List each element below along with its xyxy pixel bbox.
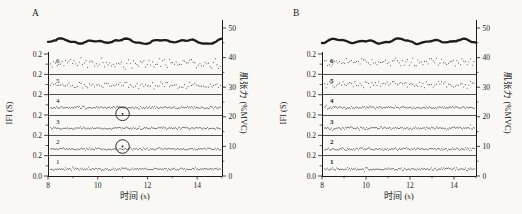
ifi-trace-1 (324, 168, 475, 172)
right-tick-label: 40 (229, 53, 237, 62)
ifi-trace-3 (324, 125, 475, 131)
right-tick-label: 50 (483, 24, 491, 33)
band-number-label: 4 (330, 97, 334, 105)
ifi-trace-2 (324, 148, 475, 151)
x-tick-label: 14 (450, 181, 458, 190)
panel-b-right-axis-title: 肌张力 (%MVC) (502, 53, 514, 153)
right-tick-label: 40 (483, 53, 491, 62)
left-tick-label: 0.2 (307, 90, 317, 99)
left-tick-label: 0.0 (33, 172, 43, 181)
ifi-trace-6 (324, 58, 474, 66)
ifi-trace-4 (324, 105, 475, 109)
panel-a-label: A (32, 8, 39, 18)
band-number-label: 4 (56, 97, 60, 105)
panel-a-right-axis-title: 肌张力 (%MVC) (238, 53, 250, 153)
ifi-trace-1 (50, 167, 221, 171)
band-number-label: 6 (56, 57, 60, 65)
left-tick-label: 0.2 (33, 111, 43, 120)
left-tick-label: 0.2 (307, 151, 317, 160)
tension-trace (322, 38, 476, 44)
ifi-trace-5 (324, 81, 474, 88)
band-number-label: 3 (56, 118, 60, 126)
right-tick-label: 10 (229, 142, 237, 151)
left-tick-label: 0.2 (33, 50, 43, 59)
x-tick-label: 8 (46, 181, 50, 190)
band-number-label: 1 (56, 158, 60, 166)
left-tick-label: 0.0 (307, 172, 317, 181)
outlier-point (122, 113, 124, 115)
ifi-trace-3 (50, 126, 221, 129)
x-tick-label: 8 (320, 181, 324, 190)
panel-b-label: B (293, 8, 299, 18)
ifi-trace-4 (50, 106, 221, 109)
figure: 0.20.20.20.20.20.20.00102030405081012146… (0, 0, 522, 214)
x-tick-label: 14 (193, 181, 201, 190)
tension-trace (48, 38, 222, 43)
figure-canvas: 0.20.20.20.20.20.20.00102030405081012146… (0, 0, 522, 214)
panel-a-x-axis-title: 时间 (s) (85, 189, 185, 202)
band-number-label: 6 (330, 57, 334, 65)
left-tick-label: 0.2 (307, 111, 317, 120)
panel-a-left-axis-title: IFI (S) (3, 63, 15, 163)
right-tick-label: 30 (483, 83, 491, 92)
band-number-label: 3 (330, 118, 334, 126)
right-tick-label: 30 (229, 83, 237, 92)
ifi-trace-6 (50, 58, 221, 70)
band-number-label: 5 (56, 77, 60, 85)
panel-b-x-axis-title: 时间 (s) (349, 189, 449, 202)
ifi-trace-5 (50, 82, 221, 89)
left-tick-label: 0.2 (33, 70, 43, 79)
left-tick-label: 0.2 (307, 70, 317, 79)
left-tick-label: 0.2 (307, 50, 317, 59)
band-number-label: 1 (330, 158, 334, 166)
left-tick-label: 0.2 (33, 90, 43, 99)
panel-b-left-axis-title: IFI (S) (277, 63, 289, 163)
band-number-label: 2 (56, 138, 60, 146)
panel-B: 0.20.20.20.20.20.20.00102030405081012146… (307, 20, 491, 190)
right-tick-label: 0 (483, 172, 487, 181)
right-tick-label: 20 (483, 112, 491, 121)
right-tick-label: 20 (229, 112, 237, 121)
left-tick-label: 0.2 (307, 131, 317, 140)
right-tick-label: 50 (229, 24, 237, 33)
panel-A: 0.20.20.20.20.20.20.00102030405081012146… (33, 20, 237, 190)
band-number-label: 5 (330, 77, 334, 85)
right-tick-label: 10 (483, 142, 491, 151)
band-number-label: 2 (330, 138, 334, 146)
left-tick-label: 0.2 (33, 151, 43, 160)
right-tick-label: 0 (229, 172, 233, 181)
left-tick-label: 0.2 (33, 131, 43, 140)
ifi-trace-2 (50, 148, 221, 151)
outlier-point (122, 146, 124, 148)
